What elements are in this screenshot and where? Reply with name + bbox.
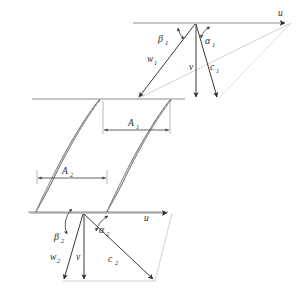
diagram-canvas: u β 1 α 1 w 1 v c 1 A 1 A 2 xyxy=(0,0,302,297)
a2-subscript: 2 xyxy=(70,171,74,178)
outlet-absolute-velocity-vector-c2 xyxy=(84,214,153,279)
outlet-w2-subscript: 2 xyxy=(57,257,61,264)
inlet-c1-subscript: 1 xyxy=(216,67,219,74)
outlet-v-label: v xyxy=(76,252,81,262)
a2-label: A xyxy=(61,166,68,176)
a1-label: A xyxy=(127,118,134,128)
inlet-w1-subscript: 1 xyxy=(154,59,157,66)
inlet-parallelogram-side-line xyxy=(218,23,291,99)
cascade-velocity-triangle-diagram: u β 1 α 1 w 1 v c 1 A 1 A 2 xyxy=(0,0,302,297)
a1-subscript: 1 xyxy=(136,123,139,130)
outlet-w2-label: w xyxy=(50,252,57,262)
inlet-alpha1-label: α xyxy=(205,35,211,46)
blade-cascade-group: A 1 A 2 xyxy=(28,99,185,212)
blade-profile-left xyxy=(36,100,100,212)
inlet-beta1-label: β xyxy=(157,33,163,44)
outlet-alpha2-label: α xyxy=(99,224,105,235)
inlet-w1-label: w xyxy=(147,54,154,64)
inlet-c1-label: c xyxy=(210,62,215,72)
inlet-velocity-triangle-group: u β 1 α 1 w 1 v c 1 xyxy=(133,8,291,99)
outlet-parallelogram-side-line xyxy=(155,213,172,281)
outlet-velocity-triangle-group: u β 2 α 2 w 2 v c 2 xyxy=(30,209,172,281)
outlet-beta2-label: β xyxy=(53,231,59,242)
inlet-beta1-angle-arc xyxy=(178,28,184,39)
inlet-alpha1-subscript: 1 xyxy=(212,41,215,48)
inlet-u-label: u xyxy=(278,8,283,18)
outlet-c2-subscript: 2 xyxy=(115,259,119,266)
blade-profile-right xyxy=(107,100,171,212)
outlet-relative-velocity-vector-w2 xyxy=(64,214,83,279)
inlet-beta1-subscript: 1 xyxy=(165,39,168,46)
inlet-v-label: v xyxy=(189,62,194,72)
outlet-beta2-subscript: 2 xyxy=(61,237,65,244)
outlet-alpha2-subscript: 2 xyxy=(106,230,110,237)
outlet-c2-label: c xyxy=(108,254,113,264)
outlet-u-label: u xyxy=(144,213,149,223)
